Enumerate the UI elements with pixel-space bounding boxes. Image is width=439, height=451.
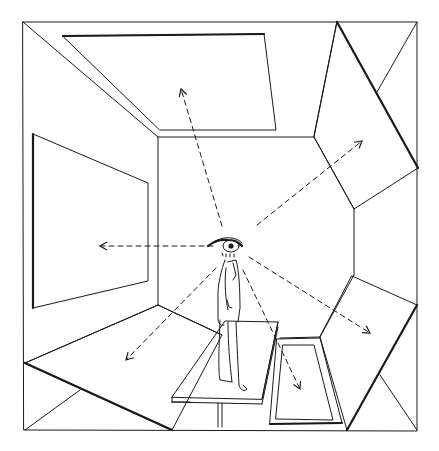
right-upper-panel [314, 22, 418, 209]
room-illustration [0, 0, 439, 451]
man-figure [218, 260, 247, 390]
back-wall [158, 137, 354, 305]
outer-frame [23, 22, 417, 431]
sight-line-upper-right [257, 141, 362, 225]
floor-rug [270, 338, 342, 424]
right-floor-panel [320, 276, 417, 430]
eye-icon [208, 238, 242, 257]
table [172, 321, 278, 427]
ceiling [23, 22, 337, 137]
left-wall-panel [33, 134, 148, 308]
sight-line-ceiling [181, 89, 222, 226]
sight-line-lower-left [126, 268, 216, 360]
sight-line-down [243, 270, 300, 389]
floor [25, 275, 354, 363]
